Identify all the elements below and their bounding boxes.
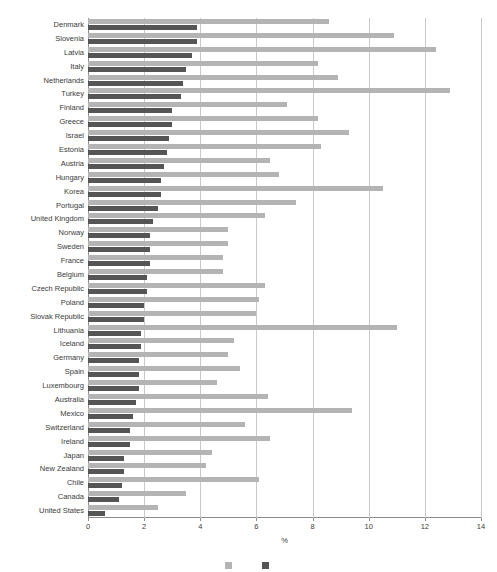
bar-light — [88, 75, 338, 80]
x-tick-label: 8 — [310, 522, 314, 531]
bar-light — [88, 144, 321, 149]
legend-item — [225, 562, 236, 569]
bar-dark — [88, 261, 150, 266]
bar-light — [88, 172, 279, 177]
bar-row — [88, 18, 481, 32]
category-label: Iceland — [0, 340, 84, 348]
x-tick-label: 0 — [86, 522, 90, 531]
x-tick-mark — [200, 518, 201, 521]
bar-row — [88, 490, 481, 504]
bar-light — [88, 227, 228, 232]
bar-light — [88, 116, 318, 121]
bar-dark — [88, 358, 139, 363]
bar-light — [88, 463, 206, 468]
x-tick-label: 6 — [254, 522, 258, 531]
bar-row — [88, 212, 481, 226]
category-label: New Zealand — [0, 465, 84, 473]
bar-dark — [88, 94, 181, 99]
category-label: France — [0, 257, 84, 265]
bar-light — [88, 380, 217, 385]
bar-row — [88, 476, 481, 490]
bar-light — [88, 255, 223, 260]
bar-row — [88, 365, 481, 379]
category-label: Finland — [0, 104, 84, 112]
category-label: United States — [0, 507, 84, 515]
category-label: Switzerland — [0, 424, 84, 432]
bar-row — [88, 185, 481, 199]
category-label: United Kingdom — [0, 215, 84, 223]
category-label: Lithuania — [0, 327, 84, 335]
bar-light — [88, 491, 186, 496]
bar-dark — [88, 386, 139, 391]
bar-row — [88, 268, 481, 282]
x-tick-mark — [369, 518, 370, 521]
bar-dark — [88, 469, 124, 474]
x-tick-mark — [88, 518, 89, 521]
category-label: Luxembourg — [0, 382, 84, 390]
bar-row — [88, 74, 481, 88]
bar-dark — [88, 414, 133, 419]
bar-dark — [88, 178, 161, 183]
bar-dark — [88, 81, 183, 86]
bar-dark — [88, 317, 144, 322]
bar-dark — [88, 67, 186, 72]
category-label: Hungary — [0, 174, 84, 182]
chart-legend — [0, 562, 497, 572]
category-label: Poland — [0, 299, 84, 307]
bar-dark — [88, 428, 130, 433]
category-label: Netherlands — [0, 77, 84, 85]
bar-dark — [88, 400, 136, 405]
bar-light — [88, 102, 287, 107]
bar-dark — [88, 247, 150, 252]
bar-light — [88, 338, 234, 343]
bar-light — [88, 477, 259, 482]
bar-row — [88, 504, 481, 518]
bar-dark — [88, 206, 158, 211]
category-label: Canada — [0, 493, 84, 501]
category-label: Mexico — [0, 410, 84, 418]
bar-dark — [88, 164, 164, 169]
bar-chart: DenmarkSloveniaLatviaItalyNetherlandsTur… — [0, 0, 497, 572]
category-label: Spain — [0, 368, 84, 376]
bar-row — [88, 435, 481, 449]
bar-dark — [88, 275, 147, 280]
category-label: Greece — [0, 118, 84, 126]
bar-row — [88, 171, 481, 185]
category-label: Ireland — [0, 438, 84, 446]
bar-dark — [88, 39, 197, 44]
bar-row — [88, 240, 481, 254]
category-label: Belgium — [0, 271, 84, 279]
category-label: Japan — [0, 452, 84, 460]
bar-row — [88, 393, 481, 407]
category-label: Slovenia — [0, 35, 84, 43]
x-tick-mark — [256, 518, 257, 521]
bar-row — [88, 157, 481, 171]
legend-swatch-icon — [262, 562, 269, 569]
category-axis-labels: DenmarkSloveniaLatviaItalyNetherlandsTur… — [0, 18, 84, 518]
x-tick-label: 12 — [421, 522, 429, 531]
bar-light — [88, 241, 228, 246]
bar-dark — [88, 303, 144, 308]
gridline — [481, 18, 482, 518]
category-label: Latvia — [0, 49, 84, 57]
bar-dark — [88, 233, 150, 238]
legend-item — [262, 562, 273, 569]
bar-row — [88, 46, 481, 60]
category-label: Czech Republic — [0, 285, 84, 293]
bar-dark — [88, 108, 172, 113]
x-axis-ticks: 02468101214 — [88, 518, 481, 534]
bar-dark — [88, 331, 141, 336]
x-tick-label: 4 — [198, 522, 202, 531]
bar-dark — [88, 344, 141, 349]
bar-light — [88, 297, 259, 302]
bar-dark — [88, 456, 124, 461]
bar-dark — [88, 136, 169, 141]
bar-light — [88, 325, 397, 330]
bar-row — [88, 296, 481, 310]
x-tick-mark — [425, 518, 426, 521]
bar-light — [88, 436, 270, 441]
bar-light — [88, 130, 349, 135]
bar-row — [88, 60, 481, 74]
x-tick-mark — [481, 518, 482, 521]
bar-dark — [88, 497, 119, 502]
